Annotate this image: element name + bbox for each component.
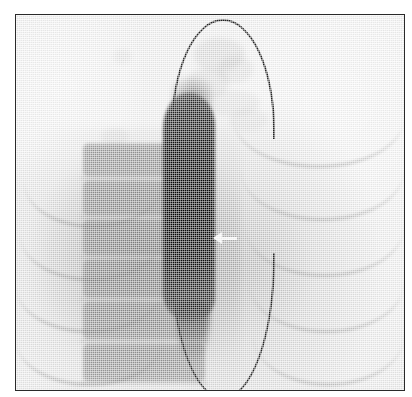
xray-canvas bbox=[16, 15, 404, 390]
image-frame bbox=[15, 14, 405, 391]
contrast-mottle-blob bbox=[113, 49, 132, 64]
arrow-shaft bbox=[220, 237, 237, 240]
radiograph-figure bbox=[0, 0, 412, 397]
pointer-arrow-icon bbox=[213, 231, 237, 245]
intervertebral-disc-space bbox=[81, 381, 208, 385]
rib-right bbox=[253, 285, 404, 386]
contrast-mottle-blob bbox=[101, 128, 128, 147]
